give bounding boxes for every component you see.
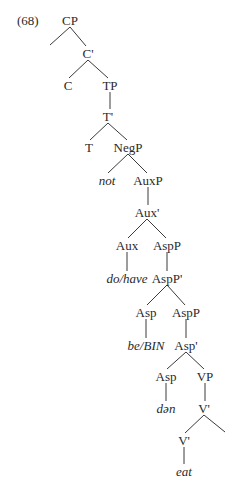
tree-branch: [147, 285, 167, 305]
tree-node-v-bar1: V': [197, 402, 211, 415]
tree-branch: [185, 415, 204, 433]
tree-node-t-bar: T': [102, 110, 114, 123]
tree-node-aux-bar: Aux': [134, 206, 161, 219]
tree-branch: [128, 219, 147, 238]
tree-branch: [167, 352, 186, 369]
tree-branch: [108, 154, 128, 173]
tree-node-c: C: [63, 79, 74, 92]
tree-node-not: not: [98, 174, 117, 187]
tree-node-do-have: do/have: [105, 272, 148, 285]
tree-node-aux: Aux: [115, 239, 139, 252]
tree-node-asp-bar: Asp': [173, 339, 198, 352]
tree-node-asp2: Asp: [155, 370, 178, 383]
tree-branch: [186, 352, 204, 369]
tree-node-be-bin: be/BIN: [127, 339, 166, 352]
tree-node-auxp: AuxP: [132, 174, 164, 187]
tree-branch: [70, 27, 86, 46]
tree-node-vp: VP: [196, 370, 215, 383]
tree-branch: [88, 60, 108, 78]
tree-branch: [108, 123, 127, 140]
tree-branch: [69, 60, 88, 78]
tree-node-asp1: Asp: [135, 306, 158, 319]
tree-branch: [90, 123, 108, 140]
tree-node-tp: TP: [101, 79, 118, 92]
tree-node-aspp-bar: AspP': [151, 272, 184, 285]
tree-branch: [128, 154, 147, 173]
tree-node-dan: dən: [156, 402, 177, 415]
tree-branch: [167, 285, 185, 305]
tree-branch: [147, 219, 166, 238]
tree-node-c-bar: C': [81, 47, 94, 60]
tree-node-eat: eat: [175, 465, 193, 478]
tree-node-aspp2: AspP: [171, 306, 201, 319]
tree-node-v-bar2: V': [177, 434, 191, 447]
tree-node-aspp1: AspP: [152, 239, 182, 252]
tree-node-t: T: [84, 141, 94, 154]
tree-node-cp: CP: [61, 14, 79, 27]
tree-node-negp: NegP: [113, 141, 144, 154]
tree-branch: [50, 27, 70, 45]
tree-branch: [204, 415, 225, 432]
